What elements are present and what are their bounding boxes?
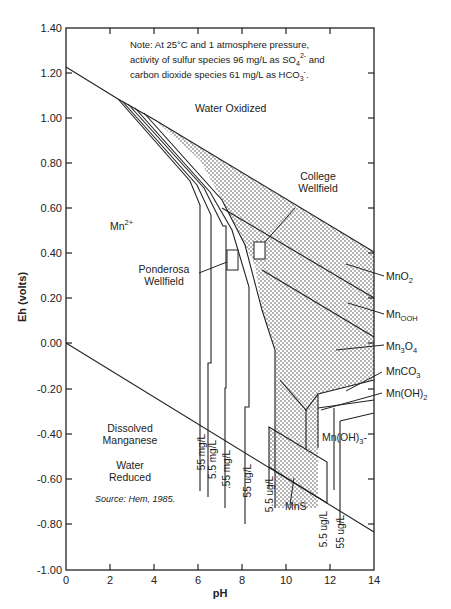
svg-text:College: College: [300, 170, 336, 182]
svg-text:Wellfield: Wellfield: [144, 275, 184, 287]
svg-text:0.20: 0.20: [41, 292, 62, 304]
svg-text:1.40: 1.40: [41, 22, 62, 34]
svg-text:4: 4: [151, 574, 157, 586]
svg-text:Note: At 25°C and 1 atmosphere: Note: At 25°C and 1 atmosphere pressure,: [130, 39, 309, 50]
svg-text:0: 0: [63, 574, 69, 586]
svg-text:-0.40: -0.40: [37, 428, 62, 440]
svg-text:MnOOH: MnOOH: [386, 308, 418, 323]
y-axis-labels: 1.40 1.20 1.00 0.80 0.60 0.40 0.20 0.00 …: [37, 22, 62, 576]
svg-text:Manganese: Manganese: [103, 434, 158, 446]
svg-text:5.5 ug/L: 5.5 ug/L: [264, 476, 275, 513]
svg-text:8: 8: [239, 574, 245, 586]
svg-text:10: 10: [280, 574, 292, 586]
svg-text:1.00: 1.00: [41, 112, 62, 124]
svg-text:0.00: 0.00: [41, 337, 62, 349]
svg-text:5.5 ug/L: 5.5 ug/L: [318, 511, 329, 548]
y-axis-title: Eh (volts): [16, 272, 28, 322]
svg-text:Mn3O4: Mn3O4: [386, 340, 417, 355]
svg-text:Ponderosa: Ponderosa: [139, 263, 190, 275]
note: Note: At 25°C and 1 atmosphere pressure,…: [130, 39, 325, 82]
svg-text:55 mg/L: 55 mg/L: [196, 434, 207, 471]
svg-text:MnCO3: MnCO3: [386, 365, 421, 380]
svg-text:Wellfield: Wellfield: [298, 182, 338, 194]
svg-text:55 ug/L: 55 ug/L: [242, 464, 253, 498]
ponderosa-leader: [199, 262, 227, 273]
svg-text:1.20: 1.20: [41, 67, 62, 79]
svg-text:Mn2+: Mn2+: [110, 218, 134, 232]
svg-text:5.5 mg/L: 5.5 mg/L: [207, 440, 218, 479]
svg-text:0.40: 0.40: [41, 247, 62, 259]
x-axis-title: pH: [213, 587, 228, 599]
svg-text:activity of sulfur species 96: activity of sulfur species 96 mg/L as SO…: [130, 52, 325, 67]
svg-text:Source: Hem, 1985.: Source: Hem, 1985.: [95, 494, 175, 504]
svg-text:0.80: 0.80: [41, 157, 62, 169]
svg-text:Reduced: Reduced: [109, 471, 151, 483]
x-axis-labels: 0 2 4 6 8 10 12 14: [63, 574, 380, 586]
svg-text:carbon dioxide species 61 mg/L: carbon dioxide species 61 mg/L as HCO3-.: [130, 68, 309, 82]
svg-text:12: 12: [324, 574, 336, 586]
svg-text:0.60: 0.60: [41, 202, 62, 214]
svg-text:6: 6: [195, 574, 201, 586]
svg-text:55 ug/L: 55 ug/L: [335, 515, 346, 549]
svg-text:2: 2: [107, 574, 113, 586]
svg-text:-0.60: -0.60: [37, 473, 62, 485]
college-wellfield-box: [254, 242, 265, 259]
svg-text:Water: Water: [116, 459, 144, 471]
svg-text:14: 14: [368, 574, 380, 586]
ponderosa-wellfield-box: [227, 250, 238, 270]
mnoh2-field: [318, 380, 374, 515]
svg-text:-0.80: -0.80: [37, 518, 62, 530]
eh-ph-diagram: 1.40 1.20 1.00 0.80 0.60 0.40 0.20 0.00 …: [0, 0, 451, 609]
svg-text:Mn(OH)2: Mn(OH)2: [386, 387, 428, 402]
svg-text:Water Oxidized: Water Oxidized: [195, 102, 267, 114]
svg-text:-1.00: -1.00: [37, 564, 62, 576]
svg-text:MnO2: MnO2: [386, 270, 413, 285]
svg-text:MnS: MnS: [285, 500, 307, 512]
svg-text:-0.20: -0.20: [37, 383, 62, 395]
svg-text:.55 mg/L: .55 mg/L: [221, 450, 232, 489]
svg-text:Dissolved: Dissolved: [107, 422, 153, 434]
